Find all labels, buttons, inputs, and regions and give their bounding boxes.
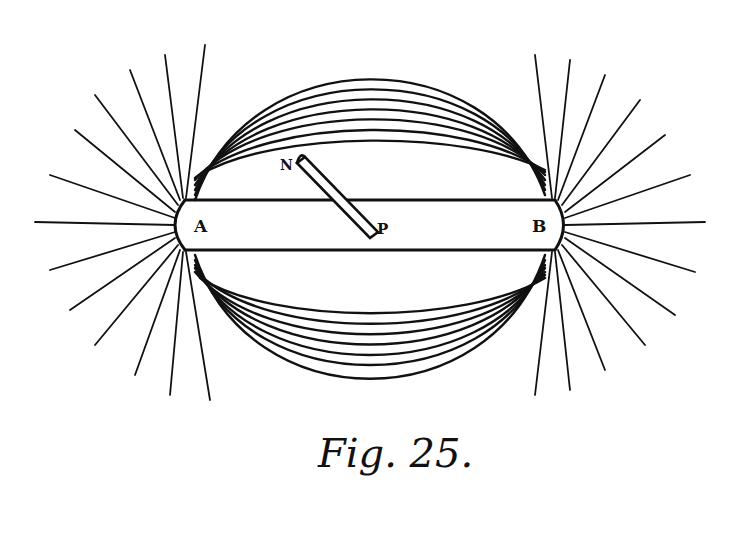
pole-a-label: A: [194, 216, 207, 236]
needle-n-label: N: [280, 157, 293, 173]
field-lines-lower: [195, 255, 545, 379]
compass-needle: [297, 155, 378, 238]
field-lines-pole-a: [35, 45, 210, 400]
figure-caption: Fig. 25.: [318, 430, 473, 476]
field-lines-pole-b: [535, 55, 705, 395]
field-lines-upper: [195, 79, 545, 200]
needle-p-label: P: [377, 220, 388, 238]
pole-b-label: B: [532, 216, 546, 236]
